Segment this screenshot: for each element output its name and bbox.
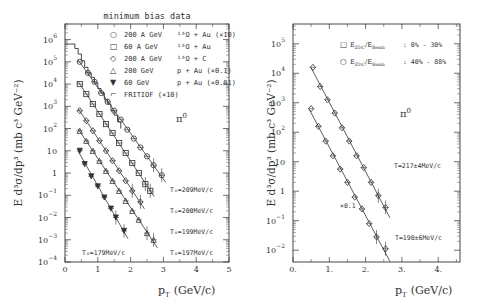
legend-energy: 200 GeV xyxy=(124,67,154,75)
temperature-label: T₀=199MeV/c xyxy=(170,228,213,236)
y-tick-label: 106 xyxy=(43,32,57,45)
legend-energy: 200 A GeV xyxy=(124,31,163,39)
temperature-label: T=190±6MeV/c xyxy=(395,234,442,242)
y-tick-label: 104 xyxy=(271,65,285,78)
left-panel: 10−410−310−210−1110102103104105106012345… xyxy=(12,11,236,299)
series xyxy=(77,59,166,182)
x-tick-label: 4. xyxy=(434,265,442,274)
legend-symbol: □ xyxy=(110,42,118,51)
y-tick-label: 10−1 xyxy=(38,187,57,200)
legend-range: : 0% - 30% xyxy=(403,41,442,49)
legend-energy: FRITIOF (×10) xyxy=(124,91,179,99)
x-tick-label: 3 xyxy=(161,265,166,274)
y-tick-label: 1 xyxy=(52,169,57,178)
legend-symbol: △ xyxy=(110,66,117,75)
scale-label: ×0.1 xyxy=(340,202,356,210)
legend-symbol: ◇ xyxy=(110,54,117,63)
legend-symbol: ○ xyxy=(340,57,347,66)
left-title: minimum bias data xyxy=(104,11,191,21)
y-tick-label: 105 xyxy=(43,54,57,67)
x-tick-label: 0 xyxy=(62,265,67,274)
pi0-label: π0 xyxy=(176,112,187,124)
legend-reaction: p + Au (×0.1) xyxy=(177,67,232,75)
right-panel: 10−210−11101021031041050.1.2.3.4.E d³σ/d… xyxy=(265,24,460,299)
x-tick-label: 2. xyxy=(362,265,370,274)
legend-energy: 60 A GeV xyxy=(124,43,159,51)
legend-symbol: ▼ xyxy=(110,78,117,87)
pi0-label: π0 xyxy=(400,107,411,119)
x-tick-label: 5 xyxy=(226,265,231,274)
x-tick-label: 0. xyxy=(289,265,297,274)
x-axis-title: pT(GeV/c) xyxy=(395,284,452,299)
temperature-label: T=217±4MeV/c xyxy=(394,162,441,170)
y-tick-label: 10−2 xyxy=(38,210,57,223)
y-tick-label: 104 xyxy=(43,76,57,89)
y-tick-label: 10−1 xyxy=(266,213,285,226)
legend-reaction: p + Au (×0.01) xyxy=(177,79,236,87)
legend-symbol: ⌐ xyxy=(110,90,117,99)
series xyxy=(310,64,390,218)
legend-symbol: □ xyxy=(340,40,347,49)
x-tick-label: 1 xyxy=(95,265,100,274)
legend-reaction: ¹⁶O + C xyxy=(177,55,207,63)
legend-reaction: ¹⁶O + Au (×10) xyxy=(177,31,236,39)
y-tick-label: 103 xyxy=(43,98,57,111)
x-tick-label: 2 xyxy=(128,265,133,274)
series xyxy=(77,108,145,209)
x-tick-label: 1. xyxy=(325,265,333,274)
temperature-label: T₀=197MeV/c xyxy=(170,249,213,257)
y-axis-title: E d³σ/dp³ (mb c³ GeV⁻²) xyxy=(12,79,24,206)
temperature-label: T₀=179MeV/c xyxy=(82,249,125,257)
y-tick-label: 1 xyxy=(280,187,285,196)
y-axis-title: E d³σ/dp³ (mb c³ GeV⁻²) xyxy=(265,79,277,206)
legend-symbol: ○ xyxy=(110,30,117,39)
temperature-label: T₀=209MeV/c xyxy=(170,186,213,194)
legend-label: EZDC/EBeam xyxy=(350,41,386,50)
legend-range: : 40% - 88% xyxy=(403,58,446,66)
fit-line xyxy=(78,60,166,182)
y-tick-label: 105 xyxy=(271,36,285,49)
y-tick-label: 10−2 xyxy=(266,242,285,255)
y-tick-label: 10 xyxy=(47,147,57,156)
chart-canvas: 10−410−310−210−1110102103104105106012345… xyxy=(0,0,477,308)
y-tick-label: 10−4 xyxy=(38,254,57,267)
legend-label: EZDC/EBeam xyxy=(350,58,386,67)
y-tick-label: 10−3 xyxy=(38,232,57,245)
x-tick-label: 4 xyxy=(194,265,199,274)
x-tick-label: 3. xyxy=(398,265,406,274)
fit-line xyxy=(78,108,144,208)
legend-energy: 60 GeV xyxy=(124,79,150,87)
legend-energy: 200 A GeV xyxy=(124,55,163,63)
legend-reaction: ¹⁶O + Au xyxy=(177,43,211,51)
series xyxy=(308,106,390,262)
y-tick-label: 102 xyxy=(43,121,57,134)
x-axis-title: pT(GeV/c) xyxy=(158,284,215,299)
temperature-label: T₀=200MeV/c xyxy=(170,207,213,215)
